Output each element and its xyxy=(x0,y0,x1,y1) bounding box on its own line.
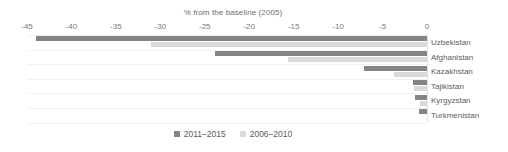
x-axis: -45-40-35-30-25-20-15-10-50 xyxy=(0,22,508,34)
chart-row: Turkmenistan xyxy=(0,108,508,123)
legend-item[interactable]: 2006–2010 xyxy=(240,129,293,139)
x-axis-tick-label: -30 xyxy=(155,22,167,31)
chart-title: % from the baseline (2005) xyxy=(0,8,487,17)
bar-recent[interactable] xyxy=(419,109,427,114)
plot-area: UzbekistanAfghanistanKazakhstanTajikista… xyxy=(0,34,508,122)
x-axis-tick-label: -20 xyxy=(243,22,255,31)
legend-swatch-icon xyxy=(174,131,180,137)
category-label: Uzbekistan xyxy=(431,36,471,49)
bar-prior[interactable] xyxy=(420,101,427,106)
bar-recent[interactable] xyxy=(36,36,427,41)
x-axis-tick-label: 0 xyxy=(425,22,429,31)
category-label: Afghanistan xyxy=(431,51,473,64)
bar-prior[interactable] xyxy=(288,57,427,62)
x-axis-tick-label: -15 xyxy=(288,22,300,31)
bar-prior[interactable] xyxy=(151,42,427,47)
bar-recent[interactable] xyxy=(215,51,427,56)
x-axis-tick-label: -5 xyxy=(379,22,386,31)
bar-recent[interactable] xyxy=(413,80,427,85)
gridline xyxy=(27,123,427,124)
x-axis-tick-label: -25 xyxy=(199,22,211,31)
x-axis-tick-label: -40 xyxy=(66,22,78,31)
bar-chart: % from the baseline (2005) -45-40-35-30-… xyxy=(0,0,508,152)
bar-prior[interactable] xyxy=(414,86,427,91)
x-axis-tick-label: -45 xyxy=(21,22,33,31)
category-label: Kyrgyzstan xyxy=(431,94,471,107)
bar-recent[interactable] xyxy=(415,95,427,100)
bar-prior[interactable] xyxy=(394,72,427,77)
category-label: Turkmenistan xyxy=(431,109,479,122)
legend-item[interactable]: 2011–2015 xyxy=(174,129,226,139)
x-axis-tick-label: -10 xyxy=(332,22,344,31)
chart-row: Kyrgyzstan xyxy=(0,93,508,108)
chart-legend: 2011–20152006–2010 xyxy=(0,129,487,139)
chart-row: Uzbekistan xyxy=(0,35,508,50)
category-label: Kazakhstan xyxy=(431,65,473,78)
chart-row: Kazakhstan xyxy=(0,64,508,79)
category-label: Tajikistan xyxy=(431,80,464,93)
chart-row: Afghanistan xyxy=(0,50,508,65)
legend-label: 2006–2010 xyxy=(250,129,293,139)
legend-label: 2011–2015 xyxy=(184,129,226,139)
chart-row: Tajikistan xyxy=(0,79,508,94)
x-axis-tick-label: -35 xyxy=(110,22,122,31)
bar-recent[interactable] xyxy=(364,66,427,71)
legend-swatch-icon xyxy=(240,131,246,137)
